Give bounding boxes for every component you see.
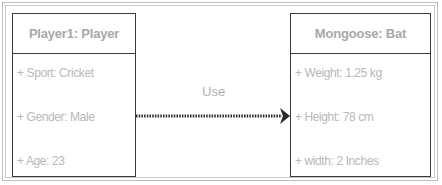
relationship-label: Use — [202, 84, 225, 99]
arrowhead-icon — [280, 108, 290, 124]
